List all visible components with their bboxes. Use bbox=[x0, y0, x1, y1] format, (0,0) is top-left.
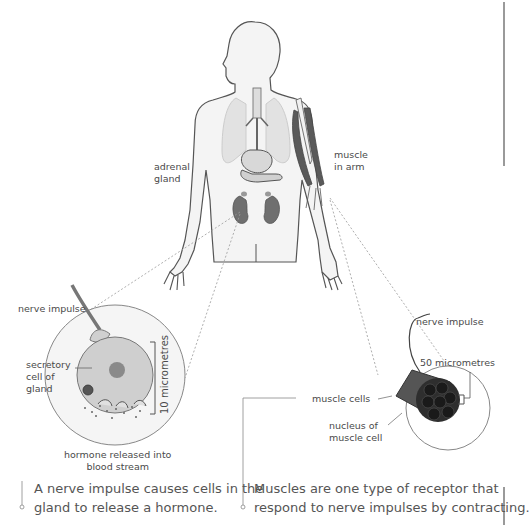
label-muscle-cells: muscle cells bbox=[312, 393, 370, 405]
label-muscle-in-arm: muscle in arm bbox=[334, 149, 368, 173]
label-nucleus: nucleus of muscle cell bbox=[329, 420, 382, 444]
label-muscle-scale: 50 micrometres bbox=[420, 357, 495, 369]
label-gland-nerve-impulse: nerve impulse bbox=[18, 303, 86, 315]
caption-gland: A nerve impulse causes cells in the glan… bbox=[34, 479, 263, 517]
muscle-zoom-lines bbox=[330, 198, 456, 378]
caption-line: gland to release a hormone. bbox=[34, 498, 263, 517]
caption-line: Muscles are one type of receptor that bbox=[254, 479, 530, 498]
label-hormone-released: hormone released into blood stream bbox=[64, 449, 171, 473]
label-line: hormone released into bbox=[64, 449, 171, 461]
label-line: nucleus of bbox=[329, 420, 382, 432]
label-line: adrenal bbox=[154, 161, 190, 173]
label-line: cell of bbox=[26, 371, 71, 383]
label-line: gland bbox=[154, 173, 190, 185]
label-gland-scale: 10 micrometres bbox=[159, 335, 170, 414]
muscle-bundle-magnified bbox=[378, 314, 490, 450]
caption-line: A nerve impulse causes cells in the bbox=[34, 479, 263, 498]
label-line: secretory bbox=[26, 359, 71, 371]
label-adrenal-gland: adrenal gland bbox=[154, 161, 190, 185]
label-line: muscle bbox=[334, 149, 368, 161]
caption-line: respond to nerve impulses by contracting… bbox=[254, 498, 530, 517]
label-line: muscle cell bbox=[329, 432, 382, 444]
label-line: gland bbox=[26, 383, 71, 395]
label-secretory-cell: secretory cell of gland bbox=[26, 359, 71, 395]
label-line: blood stream bbox=[64, 461, 171, 473]
edge-rule-top bbox=[503, 2, 505, 166]
label-muscle-nerve-impulse: nerve impulse bbox=[416, 316, 484, 328]
caption-muscle: Muscles are one type of receptor that re… bbox=[254, 479, 530, 517]
label-line: in arm bbox=[334, 161, 368, 173]
